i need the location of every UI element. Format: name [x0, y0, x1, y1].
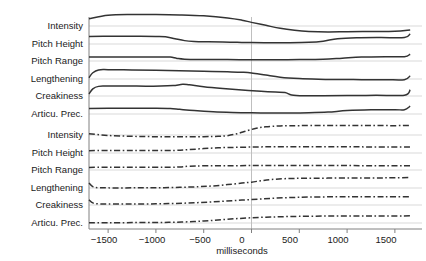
series-line-upper-panel-1 [89, 34, 410, 43]
row-label-lower-articu-prec: Articu. Prec. [31, 218, 83, 228]
axis-group [89, 17, 422, 233]
gridline-group [89, 26, 422, 223]
row-label-lower-intensity: Intensity [48, 130, 83, 140]
row-label-upper-lengthening: Lengthening [31, 74, 83, 84]
xtick-label-500: 500 [264, 235, 316, 245]
xtick-label-1500: 1500 [360, 235, 412, 245]
row-label-upper-creakiness: Creakiness [35, 91, 83, 101]
row-label-upper-pitch-range: Pitch Range [31, 56, 83, 66]
series-line-upper-panel-3 [89, 70, 410, 80]
series-line-upper-panel-5 [89, 106, 410, 113]
xtick-label-zero: 0 [216, 235, 268, 245]
x-axis-title: milliseconds [192, 246, 292, 256]
series-line-lower-panel-4 [89, 197, 410, 204]
row-label-lower-creakiness: Creakiness [35, 200, 83, 210]
series-line-upper-panel-0 [89, 14, 410, 31]
series-line-lower-panel-3 [89, 178, 410, 188]
row-label-lower-pitch-range: Pitch Range [31, 165, 83, 175]
row-label-upper-articu-prec: Articu. Prec. [31, 109, 83, 119]
series-line-lower-panel-5 [89, 216, 410, 223]
chart-figure: Intensity Pitch Height Pitch Range Lengt… [0, 0, 426, 261]
series-line-upper-panel-2 [89, 54, 410, 59]
series-group [89, 14, 410, 222]
series-line-upper-panel-4 [89, 84, 410, 96]
xtick-label-minus-1500: −1500 [78, 235, 130, 245]
row-label-upper-intensity: Intensity [48, 21, 83, 31]
xtick-label-1000: 1000 [312, 235, 364, 245]
row-label-lower-lengthening: Lengthening [31, 183, 83, 193]
row-label-upper-pitch-height: Pitch Height [32, 39, 83, 49]
series-line-lower-panel-1 [89, 147, 410, 151]
xtick-label-minus-1000: −1000 [126, 235, 178, 245]
series-line-lower-panel-2 [89, 166, 410, 168]
row-label-lower-pitch-height: Pitch Height [32, 148, 83, 158]
